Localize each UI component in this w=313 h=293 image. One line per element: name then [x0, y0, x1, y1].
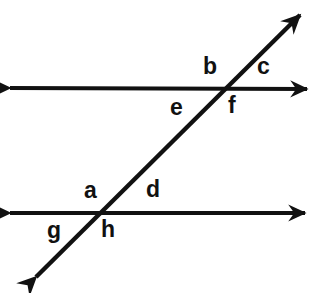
angle-label-h: h	[101, 218, 115, 241]
angle-label-g: g	[47, 219, 61, 242]
geometry-figure: b c e f a d g h	[0, 0, 313, 293]
angle-label-d: d	[146, 178, 160, 201]
upper-parallel-line	[10, 88, 307, 89]
geometry-canvas	[0, 0, 313, 293]
angle-label-b: b	[203, 55, 217, 78]
angle-label-c: c	[257, 55, 270, 78]
angle-label-a: a	[84, 179, 97, 202]
angle-label-e: e	[170, 96, 183, 119]
angle-label-f: f	[228, 94, 236, 117]
